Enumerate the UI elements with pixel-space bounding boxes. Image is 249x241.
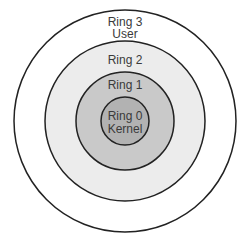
protection-rings-diagram: Ring 3 User Ring 2 Ring 1 Ring 0 Kernel: [0, 0, 249, 241]
ring-1-label: Ring 1: [108, 78, 143, 92]
ring-3-sublabel: User: [112, 27, 137, 41]
ring-0-label: Ring 0: [108, 109, 143, 123]
ring-2-label: Ring 2: [108, 53, 143, 67]
ring-0-sublabel: Kernel: [108, 122, 143, 136]
